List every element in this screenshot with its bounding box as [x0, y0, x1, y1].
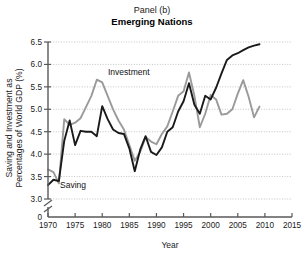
chart-svg: Panel (b) Emerging Nations Saving and In… [0, 0, 302, 254]
x-tick-label: 2015 [283, 221, 302, 230]
y-tick-label: 5.0 [31, 105, 43, 114]
saving-series-label: Saving [60, 180, 86, 190]
x-axis-title: Year [161, 240, 178, 250]
x-tick-label: 1990 [147, 221, 166, 230]
y-tick-label: 4.0 [31, 150, 43, 159]
y-axis-title: Saving and Investment as Percentages of … [4, 68, 24, 187]
chart-figure: Panel (b) Emerging Nations Saving and In… [0, 0, 302, 254]
x-tick-label: 1995 [174, 221, 193, 230]
y-axis-title-line2: Percentages of World GDP (%) [14, 68, 24, 187]
chart-background [0, 0, 302, 254]
x-tick-label: 2000 [202, 221, 221, 230]
y-tick-label: 3.0 [31, 195, 43, 204]
y-axis-title-line1: Saving and Investment as [4, 79, 14, 178]
x-tick-label: 1970 [39, 221, 58, 230]
y-tick-label: 5.5 [31, 83, 43, 92]
chart-title: Emerging Nations [111, 16, 192, 27]
y-tick-label: 3.5 [31, 173, 43, 182]
x-tick-label: 1975 [66, 221, 85, 230]
investment-series-label: Investment [108, 67, 150, 77]
x-tick-label: 2010 [256, 221, 275, 230]
x-tick-label: 1980 [93, 221, 112, 230]
y-tick-label: 4.5 [31, 128, 43, 137]
y-tick-label: 6.5 [31, 38, 43, 47]
x-tick-label: 1985 [120, 221, 139, 230]
x-tick-label: 2005 [229, 221, 248, 230]
panel-label: Panel (b) [134, 5, 171, 15]
y-tick-label: 6.0 [31, 60, 43, 69]
